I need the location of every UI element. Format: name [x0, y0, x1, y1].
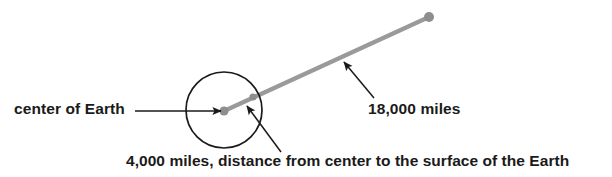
- orbit-distance-leader-line: [344, 62, 374, 98]
- orbit-endpoint-marker: [424, 12, 434, 22]
- center-of-earth-label: center of Earth: [14, 101, 125, 117]
- earth-radius-caption-label: 4,000 miles, distance from center to the…: [126, 153, 569, 169]
- earth-surface-point-marker: [249, 93, 256, 100]
- orbit-distance-label: 18,000 miles: [368, 101, 461, 117]
- diagram-canvas: [0, 0, 612, 177]
- earth-orbit-diagram: center of Earth 18,000 miles 4,000 miles…: [0, 0, 612, 177]
- radius-caption-leader-line: [247, 106, 281, 152]
